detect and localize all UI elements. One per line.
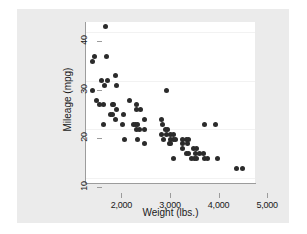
data-point [104, 54, 109, 59]
data-point [159, 132, 164, 137]
gridline [85, 32, 255, 33]
y-tick-mark [97, 41, 102, 42]
data-point [120, 122, 125, 127]
x-tick-mark [121, 193, 122, 198]
x-tick-mark [267, 193, 268, 198]
data-point [168, 141, 173, 146]
data-point [101, 122, 106, 127]
y-tick-mark [97, 138, 102, 139]
y-tick-label: 20 [79, 127, 89, 147]
data-point [103, 24, 108, 29]
gridline [85, 178, 255, 179]
data-point [142, 127, 147, 132]
data-point [234, 166, 239, 171]
data-point [114, 83, 119, 88]
data-point [202, 122, 207, 127]
plot-panel [85, 22, 255, 183]
gridline [85, 81, 255, 82]
data-point [127, 98, 132, 103]
data-point [164, 88, 169, 93]
y-tick-mark [97, 187, 102, 188]
data-point [105, 78, 110, 83]
y-tick-mark [97, 90, 102, 91]
graph-region: 10203040 2,0003,0004,0005,000 Mileage (m… [17, 9, 289, 223]
data-point [142, 117, 147, 122]
data-point [240, 166, 245, 171]
y-tick-label: 30 [79, 79, 89, 99]
data-point [142, 141, 147, 146]
data-point [205, 156, 210, 161]
data-point [121, 112, 126, 117]
data-point [92, 54, 97, 59]
data-point [90, 59, 95, 64]
x-axis-line [85, 183, 256, 184]
stata-scatter-plot-screenshot: 10203040 2,0003,0004,0005,000 Mileage (m… [0, 0, 307, 234]
y-tick-label: 10 [79, 176, 89, 196]
data-point [173, 137, 178, 142]
data-point [101, 102, 106, 107]
x-axis-title: Weight (lbs.) [85, 207, 256, 218]
data-point [90, 88, 95, 93]
x-tick-mark [219, 193, 220, 198]
x-tick-mark [170, 193, 171, 198]
data-point [215, 156, 220, 161]
data-point [138, 107, 143, 112]
data-point [135, 137, 140, 142]
y-axis-title: Mileage (mpg) [62, 55, 73, 145]
data-point [185, 141, 190, 146]
data-point [102, 83, 107, 88]
data-point [161, 137, 166, 142]
data-point [113, 117, 118, 122]
data-point [114, 107, 119, 112]
data-point [171, 156, 176, 161]
data-point [194, 156, 199, 161]
data-point [113, 73, 118, 78]
y-tick-label: 40 [79, 30, 89, 50]
data-point [122, 137, 127, 142]
data-point [213, 122, 218, 127]
data-point [171, 132, 176, 137]
